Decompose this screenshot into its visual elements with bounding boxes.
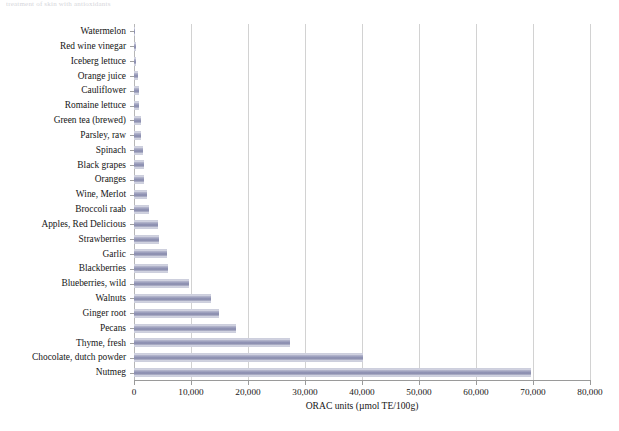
bar-row bbox=[134, 336, 590, 351]
bar bbox=[134, 205, 149, 214]
orac-units-bar-chart: WatermelonRed wine vinegarIceberg lettuc… bbox=[0, 0, 619, 431]
x-tick-mark bbox=[362, 380, 363, 385]
bar-row bbox=[134, 69, 590, 84]
bar-row bbox=[134, 143, 590, 158]
x-tick-label: 0 bbox=[104, 387, 164, 398]
bar-row bbox=[134, 158, 590, 173]
bar bbox=[134, 71, 138, 80]
bar-row bbox=[134, 128, 590, 143]
x-tick-mark bbox=[134, 380, 135, 385]
category-label: Apples, Red Delicious bbox=[0, 217, 126, 232]
bar-row bbox=[134, 187, 590, 202]
bar bbox=[134, 324, 236, 333]
category-axis-labels: WatermelonRed wine vinegarIceberg lettuc… bbox=[0, 24, 130, 380]
bar bbox=[134, 101, 139, 110]
bar bbox=[134, 57, 136, 66]
bar bbox=[134, 279, 189, 288]
x-tick-label: 20,000 bbox=[218, 387, 278, 398]
category-label: Oranges bbox=[0, 172, 126, 187]
gridline-80000 bbox=[590, 24, 591, 380]
bar bbox=[134, 86, 139, 95]
category-label: Green tea (brewed) bbox=[0, 113, 126, 128]
x-tick-mark bbox=[191, 380, 192, 385]
bar bbox=[134, 368, 531, 377]
bar bbox=[134, 146, 143, 155]
bar-row bbox=[134, 39, 590, 54]
x-tick-mark bbox=[248, 380, 249, 385]
bar bbox=[134, 42, 136, 51]
bar-row bbox=[134, 365, 590, 380]
category-label: Blueberries, wild bbox=[0, 276, 126, 291]
bar-row bbox=[134, 247, 590, 262]
x-tick-label: 80,000 bbox=[560, 387, 619, 398]
bar-rows bbox=[134, 24, 590, 380]
category-label: Strawberries bbox=[0, 232, 126, 247]
bar bbox=[134, 249, 167, 258]
category-label: Blackberries bbox=[0, 261, 126, 276]
x-tick-label: 10,000 bbox=[161, 387, 221, 398]
category-label: Cauliflower bbox=[0, 83, 126, 98]
category-label: Wine, Merlot bbox=[0, 187, 126, 202]
bar-row bbox=[134, 202, 590, 217]
category-label: Chocolate, dutch powder bbox=[0, 350, 126, 365]
category-label: Romaine lettuce bbox=[0, 98, 126, 113]
bar-row bbox=[134, 172, 590, 187]
bar bbox=[134, 160, 144, 169]
bar-row bbox=[134, 98, 590, 113]
category-label: Broccoli raab bbox=[0, 202, 126, 217]
bar-row bbox=[134, 306, 590, 321]
x-tick-label: 70,000 bbox=[503, 387, 563, 398]
plot-area bbox=[134, 24, 590, 380]
bar-row bbox=[134, 83, 590, 98]
bar bbox=[134, 353, 363, 362]
x-tick-label: 30,000 bbox=[275, 387, 335, 398]
bar bbox=[134, 27, 135, 36]
bar bbox=[134, 294, 211, 303]
bar-row bbox=[134, 54, 590, 69]
bar-row bbox=[134, 24, 590, 39]
category-label: Nutmeg bbox=[0, 365, 126, 380]
x-tick-mark bbox=[476, 380, 477, 385]
x-tick-label: 40,000 bbox=[332, 387, 392, 398]
bar bbox=[134, 264, 168, 273]
bar bbox=[134, 131, 141, 140]
x-tick-mark bbox=[590, 380, 591, 385]
category-label: Iceberg lettuce bbox=[0, 54, 126, 69]
category-label: Red wine vinegar bbox=[0, 39, 126, 54]
category-label: Thyme, fresh bbox=[0, 336, 126, 351]
x-tick-mark bbox=[305, 380, 306, 385]
bar bbox=[134, 309, 219, 318]
bar-row bbox=[134, 321, 590, 336]
bar bbox=[134, 190, 147, 199]
x-tick-mark bbox=[533, 380, 534, 385]
bar-row bbox=[134, 291, 590, 306]
bar-row bbox=[134, 217, 590, 232]
category-label: Watermelon bbox=[0, 24, 126, 39]
category-label: Black grapes bbox=[0, 158, 126, 173]
category-label: Garlic bbox=[0, 247, 126, 262]
category-label: Walnuts bbox=[0, 291, 126, 306]
bar bbox=[134, 338, 290, 347]
bar bbox=[134, 235, 159, 244]
x-tick-label: 50,000 bbox=[389, 387, 449, 398]
category-label: Pecans bbox=[0, 321, 126, 336]
bar-row bbox=[134, 261, 590, 276]
category-label: Parsley, raw bbox=[0, 128, 126, 143]
bar-row bbox=[134, 276, 590, 291]
x-tick-label: 60,000 bbox=[446, 387, 506, 398]
category-label: Ginger root bbox=[0, 306, 126, 321]
bar bbox=[134, 220, 158, 229]
category-label: Spinach bbox=[0, 143, 126, 158]
bar bbox=[134, 116, 141, 125]
bar-row bbox=[134, 350, 590, 365]
bar-row bbox=[134, 113, 590, 128]
bar-row bbox=[134, 232, 590, 247]
x-tick-mark bbox=[419, 380, 420, 385]
category-label: Orange juice bbox=[0, 69, 126, 84]
bar bbox=[134, 175, 144, 184]
x-axis-title: ORAC units (µmol TE/100g) bbox=[134, 400, 590, 411]
